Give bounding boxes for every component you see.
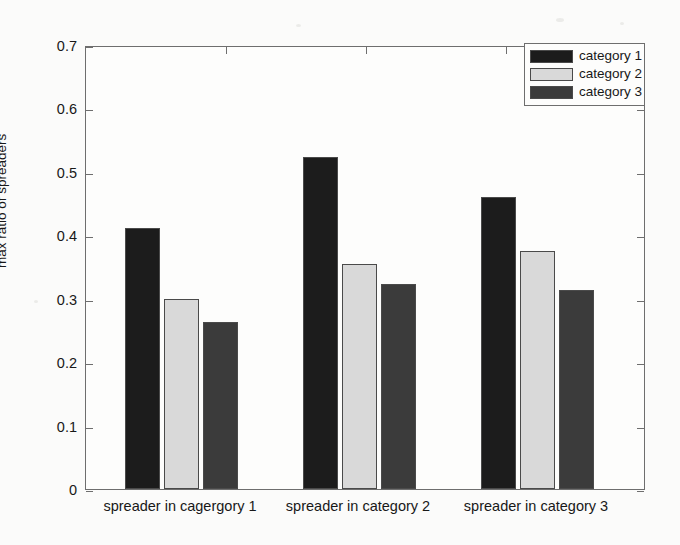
legend-entry: category 3 xyxy=(530,84,639,100)
y-axis-tick-right xyxy=(637,428,644,429)
x-axis-group-label: spreader in cagergory 1 xyxy=(103,498,256,514)
y-axis-tick-label: 0.7 xyxy=(5,38,77,54)
legend-swatch xyxy=(530,68,573,81)
x-axis-tick-top xyxy=(506,47,507,54)
x-axis-tick-top xyxy=(226,47,227,54)
y-axis-tick xyxy=(86,47,93,48)
bar xyxy=(481,197,516,489)
bar xyxy=(520,251,555,489)
bar xyxy=(342,264,377,489)
x-axis-group-label: spreader in category 2 xyxy=(286,498,430,514)
legend-swatch xyxy=(530,50,573,63)
y-axis-tick-right xyxy=(637,237,644,238)
y-axis-tick-label: 0.3 xyxy=(5,292,77,308)
y-axis-tick-label: 0.1 xyxy=(5,419,77,435)
legend: category 1category 2category 3 xyxy=(524,43,645,106)
y-axis-tick-right xyxy=(637,110,644,111)
y-axis-tick xyxy=(86,491,93,492)
bar xyxy=(203,322,238,489)
x-axis-tick-top xyxy=(366,47,367,54)
y-axis-tick-right xyxy=(637,364,644,365)
y-axis-tick xyxy=(86,174,93,175)
y-axis-tick xyxy=(86,237,93,238)
legend-label: category 2 xyxy=(579,67,642,81)
plot-area xyxy=(85,46,645,490)
bar xyxy=(559,290,594,489)
y-axis-tick xyxy=(86,301,93,302)
y-axis-tick-label: 0.6 xyxy=(5,101,77,117)
bar-chart-figure: max ratio of spreaders 00.10.20.30.40.50… xyxy=(0,0,680,545)
scan-artifact xyxy=(620,22,624,25)
y-axis-tick-label: 0.2 xyxy=(5,355,77,371)
bar xyxy=(125,228,160,489)
legend-label: category 1 xyxy=(579,49,642,63)
y-axis-tick-right xyxy=(637,491,644,492)
legend-entry: category 1 xyxy=(530,48,639,64)
legend-label: category 3 xyxy=(579,85,642,99)
y-axis-tick xyxy=(86,364,93,365)
y-axis-title: max ratio of spreaders xyxy=(0,134,9,268)
y-axis-tick-right xyxy=(637,301,644,302)
x-axis-group-label: spreader in category 3 xyxy=(464,498,608,514)
bar xyxy=(303,157,338,489)
y-axis-tick-label: 0 xyxy=(5,482,77,498)
scan-artifact xyxy=(296,24,301,27)
bar xyxy=(381,284,416,489)
y-axis-tick-label: 0.4 xyxy=(5,228,77,244)
scan-artifact xyxy=(556,18,564,22)
y-axis-tick-label: 0.5 xyxy=(5,165,77,181)
y-axis-tick-right xyxy=(637,174,644,175)
legend-entry: category 2 xyxy=(530,66,639,82)
legend-swatch xyxy=(530,86,573,99)
y-axis-tick xyxy=(86,110,93,111)
y-axis-tick xyxy=(86,428,93,429)
bar xyxy=(164,299,199,489)
